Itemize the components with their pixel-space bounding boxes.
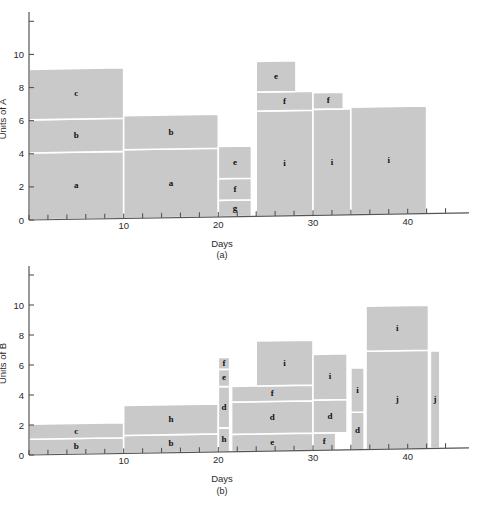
chart-content: abcabgfeifeifi102030400246810DaysUnits o… <box>0 12 469 260</box>
bar-block-label: e <box>233 157 237 167</box>
bar-block-label: a <box>169 178 174 188</box>
panel-caption: (b) <box>217 486 228 496</box>
bar-block-label: g <box>233 203 238 213</box>
y-axis-title: Units of A <box>0 98 8 139</box>
y-tick-label: 8 <box>19 330 24 341</box>
y-tick-label: 0 <box>19 215 24 226</box>
y-tick-label: 8 <box>19 82 24 93</box>
x-tick-label: 10 <box>118 455 129 466</box>
y-tick-label: 0 <box>19 450 24 461</box>
y-tick-label: 4 <box>19 148 24 159</box>
y-tick-label: 6 <box>19 360 24 371</box>
x-tick-label: 20 <box>213 219 224 230</box>
y-axis-title: Units of B <box>0 343 8 384</box>
x-tick-label: 40 <box>402 216 413 227</box>
bar-block-label: d <box>328 411 333 421</box>
x-axis-title: Days <box>211 473 233 484</box>
bar-block-label: e <box>222 372 226 382</box>
bar-block-label: d <box>270 412 275 422</box>
bar-block-label: b <box>74 130 79 140</box>
y-tick-label: 2 <box>19 181 24 192</box>
bar-block-label: d <box>222 402 227 412</box>
chart-panel-a: abcabgfeifeifi102030400246810DaysUnits o… <box>0 0 487 262</box>
bar-block-label: h <box>168 414 173 424</box>
bar-block-label: h <box>222 434 227 444</box>
x-tick-label: 30 <box>308 452 319 463</box>
x-tick-label: 20 <box>213 454 224 465</box>
chart-content: bcbhhdefedfifdidijij102030400246810DaysU… <box>0 266 469 496</box>
bar-block-label: j <box>395 394 399 404</box>
y-tick-label: 6 <box>19 115 24 126</box>
y-tick-label: 10 <box>13 300 24 311</box>
chart-panel-b: bcbhhdefedfifdidijij102030400246810DaysU… <box>0 262 487 514</box>
bar-block-label: a <box>74 180 79 190</box>
bar-block-label: c <box>74 88 78 98</box>
bar-block-label: b <box>168 127 173 137</box>
bar-block-label: b <box>74 441 79 451</box>
chart-b-svg: bcbhhdefedfifdidijij102030400246810DaysU… <box>0 262 487 514</box>
bar-block-label: j <box>433 394 437 404</box>
x-tick-label: 40 <box>402 451 413 462</box>
x-axis-title: Days <box>211 238 233 249</box>
figure-page: abcabgfeifeifi102030400246810DaysUnits o… <box>0 0 487 514</box>
bar-block-label: b <box>168 438 173 448</box>
y-tick-label: 10 <box>13 49 24 60</box>
bar-block-label: e <box>270 437 274 447</box>
chart-a-svg: abcabgfeifeifi102030400246810DaysUnits o… <box>0 0 487 262</box>
bar-block-label: e <box>274 71 278 81</box>
y-tick-label: 4 <box>19 390 24 401</box>
x-tick-label: 10 <box>118 220 129 231</box>
x-tick-label: 30 <box>308 217 319 228</box>
y-tick-label: 2 <box>19 420 24 431</box>
bar-block-label: c <box>74 426 78 436</box>
panel-caption: (a) <box>217 250 228 260</box>
bar-block-label: d <box>355 425 360 435</box>
